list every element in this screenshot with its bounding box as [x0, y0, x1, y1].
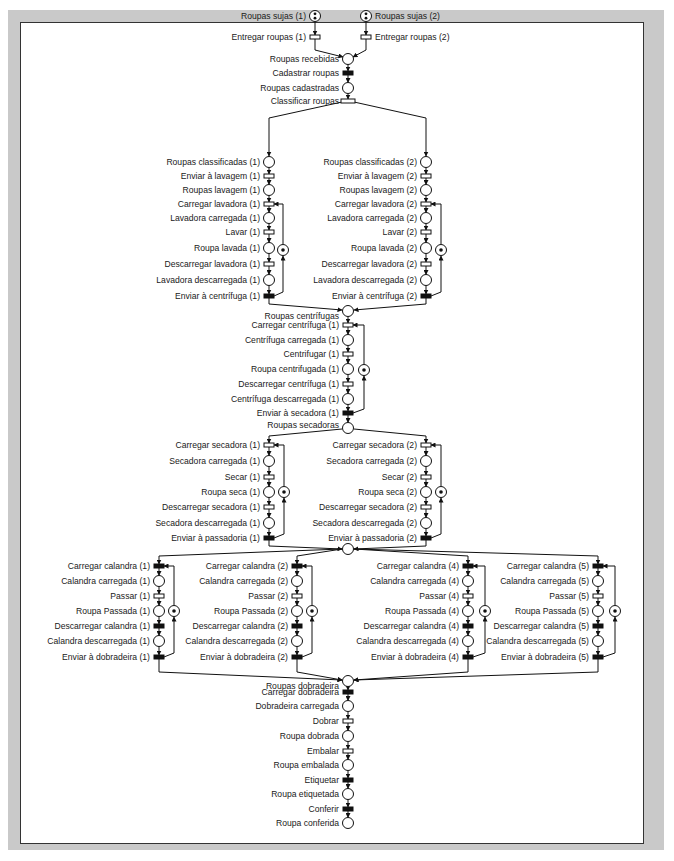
transition-bar [343, 807, 353, 811]
arc [274, 204, 283, 244]
transition-label: Entregar roupas (2) [375, 32, 450, 42]
transition-label: Descarregar lavadora (2) [321, 259, 417, 269]
arc [274, 256, 283, 296]
place-circle [343, 818, 354, 829]
arc [159, 659, 342, 680]
place-label: Roupa centrifugada (1) [251, 364, 339, 374]
transition-bar [264, 202, 274, 206]
place-label: Calandra carregada (4) [370, 576, 459, 586]
place-circle [421, 275, 432, 286]
place-label: Roupa Passada (5) [515, 606, 589, 616]
arc [431, 204, 441, 244]
transition-label: Enviar à secadora (1) [257, 408, 339, 418]
transition-bar [343, 411, 353, 415]
petri-net-diagram: Roupas sujas (1)Roupas sujas (2)Entregar… [0, 0, 674, 861]
transition-bar [264, 536, 274, 540]
arc [274, 445, 284, 486]
transition-bar [593, 655, 603, 659]
place-label: Roupa etiquetada [271, 789, 339, 799]
transition-bar [343, 719, 353, 723]
place-label: Roupas lavagem (2) [340, 185, 418, 195]
nodes: Roupas sujas (1)Roupas sujas (2)Entregar… [47, 11, 620, 829]
transition-label: Enviar à passadoria (2) [328, 533, 417, 543]
place-label: Secadora descarregada (1) [155, 518, 260, 528]
transition-label: Secar (1) [225, 472, 260, 482]
place-label: Centrífuga carregada (1) [245, 335, 339, 345]
transition-bar [421, 174, 431, 178]
transition-bar [593, 564, 603, 568]
arc [302, 617, 312, 657]
place-circle [421, 243, 432, 254]
place-label: Calandra carregada (2) [199, 576, 288, 586]
place-circle [343, 83, 354, 94]
place-label: Roupa lavada (2) [351, 243, 417, 253]
transition-label: Descarregar calandra (1) [54, 621, 150, 631]
token-icon [613, 609, 617, 613]
transition-bar [154, 594, 164, 598]
transition-label: Enviar à dobradeira (5) [501, 652, 589, 662]
transition-label: Embalar [307, 746, 339, 756]
transition-label: Classificar roupas [271, 96, 339, 106]
place-circle [310, 11, 321, 22]
place-label: Roupa seca (2) [358, 487, 417, 497]
arc [473, 617, 485, 657]
transition-label: Carregar calandra (1) [68, 561, 150, 571]
transition-bar [421, 262, 431, 266]
place-label: Roupas classificadas (1) [166, 157, 260, 167]
place-label: Lavadora descarregada (2) [313, 275, 417, 285]
arc [473, 566, 485, 605]
place-circle [264, 213, 275, 224]
place-label: Secadora carregada (1) [169, 456, 260, 466]
place-circle [593, 606, 604, 617]
transition-bar [264, 475, 274, 479]
transition-label: Enviar à dobradeira (4) [371, 652, 459, 662]
transition-label: Descarregar centrífuga (1) [238, 379, 339, 389]
transition-label: Secar (2) [382, 472, 417, 482]
transition-bar [343, 778, 353, 782]
token-icon [439, 248, 443, 252]
place-circle [264, 185, 275, 196]
transition-label: Carregar secadora (1) [175, 440, 260, 450]
place-label: Roupas recebidas [270, 54, 339, 64]
place-label: Dobradeira carregada [255, 701, 339, 711]
arc [269, 102, 342, 156]
transition-bar [310, 35, 320, 39]
place-circle [343, 760, 354, 771]
arc [354, 102, 426, 156]
place-label: Roupa Passada (4) [385, 606, 459, 616]
transition-label: Descarregar calandra (4) [363, 621, 459, 631]
transition-label: Descarregar secadora (1) [162, 502, 260, 512]
place-label: Roupa Passada (2) [214, 606, 288, 616]
place-circle [343, 544, 354, 555]
place-label: Calandra descarregada (1) [47, 636, 150, 646]
token-icon [281, 248, 285, 252]
arc [353, 376, 364, 413]
transition-label: Enviar à passadoria (1) [171, 533, 260, 543]
place-label: Roupa dobrada [280, 731, 339, 741]
place-circle [421, 518, 432, 529]
transition-label: Carregar calandra (5) [507, 561, 589, 571]
place-circle [421, 157, 432, 168]
transition-bar [264, 262, 274, 266]
arc [431, 256, 441, 296]
place-circle [154, 636, 165, 647]
arc [302, 566, 312, 605]
transition-bar [421, 294, 431, 298]
transition-label: Passar (2) [248, 591, 288, 601]
transition-bar [264, 294, 274, 298]
arc [603, 617, 615, 657]
transition-label: Cadastrar roupas [273, 68, 339, 78]
place-circle [463, 606, 474, 617]
transition-bar [292, 564, 302, 568]
place-label: Calandra descarregada (4) [356, 636, 459, 646]
token-icon [314, 17, 317, 20]
transition-label: Lavar (1) [226, 227, 261, 237]
transition-bar [264, 174, 274, 178]
place-label: Roupas sujas (1) [241, 11, 306, 21]
transition-label: Carregar lavadora (2) [335, 199, 417, 209]
arcs [159, 22, 615, 818]
place-circle [264, 456, 275, 467]
transition-label: Centrifugar (1) [284, 349, 340, 359]
transition-label: Passar (1) [110, 591, 150, 601]
arc [297, 549, 342, 564]
